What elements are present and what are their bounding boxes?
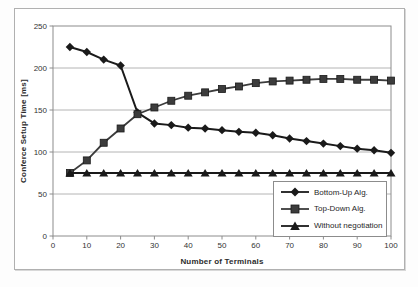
- marker-diamond: [66, 43, 74, 51]
- legend-label: Bottom-Up Alg.: [314, 188, 368, 197]
- x-tick-label: 0: [51, 241, 56, 250]
- marker-diamond: [370, 146, 378, 154]
- marker-square: [252, 80, 259, 87]
- y-tick-label: 250: [34, 22, 48, 31]
- marker-diamond: [336, 142, 344, 150]
- marker-diamond: [184, 123, 192, 131]
- x-tick-label: 60: [251, 241, 260, 250]
- square-marker-icon: [280, 204, 310, 214]
- marker-square: [303, 76, 310, 83]
- marker-square: [202, 89, 209, 96]
- y-tick-label: 100: [34, 148, 48, 157]
- marker-square: [219, 86, 226, 93]
- marker-diamond: [167, 121, 175, 129]
- x-tick-label: 30: [150, 241, 159, 250]
- legend-entry-top-down: Top-Down Alg.: [280, 202, 386, 216]
- marker-square: [388, 77, 395, 84]
- x-tick-label: 90: [353, 241, 362, 250]
- y-tick-label: 150: [34, 106, 48, 115]
- marker-square: [168, 97, 175, 104]
- x-tick-label: 40: [184, 241, 193, 250]
- legend-box: Bottom-Up Alg. Top-Down Alg. Without neg…: [273, 181, 387, 237]
- series-line-diamond: [70, 47, 391, 153]
- marker-square: [151, 104, 158, 111]
- marker-diamond: [252, 128, 260, 136]
- triangle-marker-icon: [280, 221, 310, 231]
- x-tick-label: 20: [116, 241, 125, 250]
- marker-square: [354, 76, 361, 83]
- y-tick-label: 50: [38, 190, 47, 199]
- legend-entry-without-negotiation: Without negotiation: [280, 219, 386, 233]
- x-tick-label: 50: [218, 241, 227, 250]
- marker-square: [134, 111, 141, 118]
- marker-diamond: [285, 134, 293, 142]
- marker-square: [320, 75, 327, 82]
- marker-diamond: [100, 55, 108, 63]
- legend-label: Without negotiation: [314, 221, 383, 230]
- marker-diamond: [302, 137, 310, 145]
- chart-figure: 0102030405060708090100050100150200250 Nu…: [0, 0, 418, 287]
- y-tick-label: 200: [34, 64, 48, 73]
- marker-square: [337, 75, 344, 82]
- legend-entry-bottom-up: Bottom-Up Alg.: [280, 185, 386, 199]
- x-tick-label: 70: [285, 241, 294, 250]
- x-axis-title: Number of Terminals: [53, 257, 391, 266]
- marker-square: [100, 139, 107, 146]
- marker-square: [371, 76, 378, 83]
- diamond-marker-icon: [280, 187, 310, 197]
- marker-square: [185, 92, 192, 99]
- legend-label: Top-Down Alg.: [314, 204, 366, 213]
- x-tick-label: 10: [82, 241, 91, 250]
- marker-diamond: [269, 131, 277, 139]
- marker-diamond: [387, 149, 395, 157]
- x-tick-label: 80: [319, 241, 328, 250]
- y-tick-label: 0: [43, 232, 48, 241]
- marker-square: [286, 77, 293, 84]
- marker-diamond: [83, 48, 91, 56]
- marker-square: [235, 83, 242, 90]
- marker-diamond: [319, 139, 327, 147]
- x-tick-label: 100: [384, 241, 398, 250]
- marker-diamond: [218, 126, 226, 134]
- marker-square: [83, 157, 90, 164]
- marker-square: [117, 125, 124, 132]
- marker-diamond: [235, 128, 243, 136]
- marker-diamond: [201, 124, 209, 132]
- chart-frame: 0102030405060708090100050100150200250 Nu…: [14, 8, 405, 270]
- y-axis-title: Conferce Setup Time [ms]: [19, 79, 28, 183]
- marker-square: [269, 78, 276, 85]
